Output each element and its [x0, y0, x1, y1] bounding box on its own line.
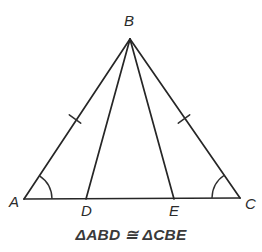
geometry-figure: A B C D E ΔABD ≅ ΔCBE: [0, 0, 262, 252]
vertex-label-b: B: [124, 12, 134, 29]
angle-arc-c-icon: [212, 175, 225, 198]
angle-arc-a-icon: [40, 176, 52, 199]
segment-be: [130, 39, 174, 199]
vertex-label-a: A: [8, 193, 19, 210]
segment-bd: [86, 39, 130, 199]
vertex-label-d: D: [81, 202, 92, 219]
vertex-label-e: E: [169, 202, 180, 219]
congruence-caption: ΔABD ≅ ΔCBE: [0, 226, 262, 244]
triangle-diagram-svg: A B C D E: [0, 0, 262, 252]
vertex-label-c: C: [245, 195, 256, 212]
segment-ac-base: [24, 198, 240, 199]
segment-ab: [24, 39, 130, 199]
